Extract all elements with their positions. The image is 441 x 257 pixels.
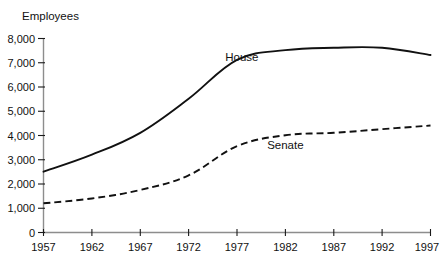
line-chart: Employees 8,000 7,000 6,000 5,000 4,000 … [0,0,441,257]
x-tick-label-1967: 1967 [128,241,152,253]
x-tick-label-1997: 1997 [415,241,439,253]
x-tick-label-1982: 1982 [273,241,297,253]
y-tick-label-7000: 7,000 [7,57,35,69]
y-tick-label-1000: 1,000 [7,202,35,214]
y-tick-label-0: 0 [29,227,35,239]
y-tick-label-5000: 5,000 [7,105,35,117]
x-tick-label-1972: 1972 [176,241,200,253]
y-tick-label-6000: 6,000 [7,81,35,93]
chart-page: Employees 8,000 7,000 6,000 5,000 4,000 … [0,0,441,257]
x-tick-label-1987: 1987 [322,241,346,253]
y-tick-label-2000: 2,000 [7,178,35,190]
x-axis-tick-labels: 1957 1962 1967 1972 1977 1982 1987 1992 … [31,241,439,253]
y-tick-label-3000: 3,000 [7,154,35,166]
x-tick-label-1977: 1977 [225,241,249,253]
x-tick-label-1957: 1957 [31,241,55,253]
x-tick-label-1962: 1962 [80,241,104,253]
senate-series-line [44,126,431,204]
y-axis-tick-labels: 8,000 7,000 6,000 5,000 4,000 3,000 2,00… [7,33,35,239]
house-series-line [44,47,431,172]
senate-series-label: Senate [267,139,303,151]
y-tick-label-4000: 4,000 [7,130,35,142]
house-series-label: House [225,51,258,63]
y-axis-title: Employees [22,10,79,22]
y-tick-label-8000: 8,000 [7,33,35,45]
x-tick-label-1992: 1992 [370,241,394,253]
